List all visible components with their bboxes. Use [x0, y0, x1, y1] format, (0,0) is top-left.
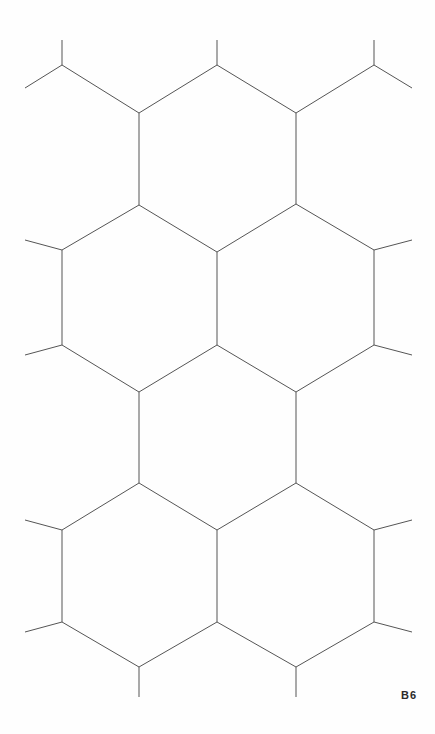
hexagon-edge: [374, 622, 412, 632]
hexagon-edge: [139, 65, 217, 113]
hexagon-lattice-lines: [25, 40, 412, 697]
hexagon-edge: [296, 65, 374, 113]
worksheet-page: B6: [0, 0, 435, 734]
hexagon-edge: [139, 345, 217, 392]
hexagon-edge: [25, 622, 62, 632]
plate-label: B6: [401, 690, 417, 701]
hexagon-edge: [25, 240, 62, 250]
hexagon-edge: [374, 240, 412, 250]
hexagon-edge: [217, 65, 296, 113]
hexagon-edge: [296, 345, 374, 392]
hexagon-edge: [296, 204, 374, 250]
hexagon-edge: [62, 483, 139, 530]
hexagon-edge: [62, 65, 139, 113]
hexagon-edge: [139, 483, 217, 530]
hexagon-edge: [25, 345, 62, 355]
hexagon-grid-figure: [0, 0, 435, 734]
hexagon-edge: [217, 204, 296, 252]
hexagon-edge: [374, 65, 412, 88]
hexagon-edge: [139, 205, 217, 252]
hexagon-edge: [217, 345, 296, 392]
hexagon-edge: [62, 205, 139, 250]
hexagon-edge: [25, 520, 62, 530]
hexagon-edge: [374, 345, 412, 355]
hexagon-edge: [25, 65, 62, 88]
hexagon-edge: [217, 622, 296, 667]
hexagon-edge: [217, 483, 296, 530]
hexagon-edge: [374, 520, 412, 530]
hexagon-edge: [139, 622, 217, 667]
hexagon-edge: [62, 345, 139, 392]
hexagon-edge: [296, 483, 374, 530]
hexagon-edge: [62, 622, 139, 667]
hexagon-edge: [296, 622, 374, 667]
